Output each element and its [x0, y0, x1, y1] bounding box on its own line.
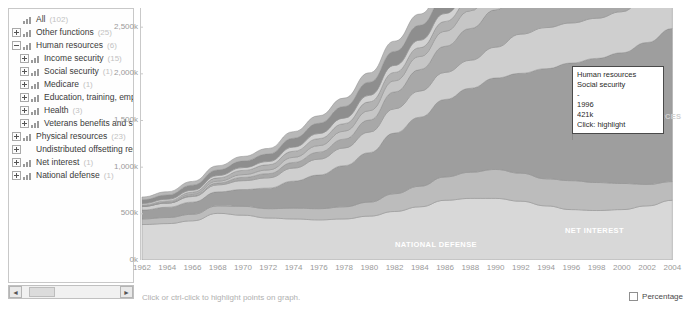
bar-chart-icon	[31, 94, 41, 102]
x-axis-tick-label: 1968	[209, 263, 227, 272]
x-axis-tick-label: 1962	[133, 263, 151, 272]
tree-item-label: Physical resources	[36, 130, 107, 143]
x-axis-tick-label: 1990	[487, 263, 505, 272]
expand-icon[interactable]	[20, 54, 29, 63]
tree-item-label: National defense	[36, 169, 100, 182]
x-axis-tick-label: 1996	[562, 263, 580, 272]
chart-areas[interactable]	[142, 8, 672, 260]
x-axis-tick-label: 1998	[588, 263, 606, 272]
collapse-icon[interactable]	[12, 41, 21, 50]
tree-item-label: Income security	[44, 52, 104, 65]
expand-icon[interactable]	[12, 132, 21, 141]
icon-placeholder	[23, 146, 33, 154]
expand-icon[interactable]	[12, 158, 21, 167]
bar-chart-icon	[23, 29, 33, 37]
y-axis-tick-label: 1,000k	[102, 162, 138, 171]
bar-chart-icon	[31, 68, 41, 76]
x-axis-tick-label: 1984	[411, 263, 429, 272]
graph-hint-text: Click or ctrl-click to highlight points …	[142, 293, 300, 302]
tooltip-separator: -	[577, 90, 659, 100]
tree-item-label: All	[36, 13, 45, 26]
y-axis-tick-label: 2,000k	[102, 68, 138, 77]
bar-chart-icon	[31, 55, 41, 63]
tooltip-category: Human resources	[577, 70, 659, 80]
area-label-national-defense: NATIONAL DEFENSE	[395, 240, 477, 249]
bar-chart-icon	[31, 120, 41, 128]
expand-icon[interactable]	[12, 171, 21, 180]
expand-icon[interactable]	[20, 67, 29, 76]
tree-item-label: Net interest	[36, 156, 79, 169]
percentage-toggle[interactable]: Percentage	[629, 292, 683, 301]
percentage-label: Percentage	[642, 292, 683, 301]
percentage-checkbox[interactable]	[629, 292, 638, 301]
y-axis-tick-label: 1,500k	[102, 115, 138, 124]
y-axis-labels: 0k500k1,000k1,500k2,000k2,500k	[102, 8, 138, 260]
x-axis-tick-label: 1964	[158, 263, 176, 272]
x-axis-tick-label: 1978	[335, 263, 353, 272]
sidebar-horizontal-scrollbar[interactable]: ◄ ►	[8, 285, 134, 299]
x-axis-tick-label: 1970	[234, 263, 252, 272]
bar-chart-icon	[23, 133, 33, 141]
x-axis-tick-label: 1966	[184, 263, 202, 272]
tooltip-value: 421k	[577, 110, 659, 120]
y-axis-tick-label: 500k	[102, 208, 138, 217]
tree-item-label: Health	[44, 104, 69, 117]
stacked-area-chart[interactable]: 0k500k1,000k1,500k2,000k2,500k 196219641…	[140, 8, 685, 286]
scroll-left-button[interactable]: ◄	[9, 286, 22, 298]
area-label-net-interest: NET INTEREST	[565, 226, 624, 235]
spacer-icon	[12, 15, 21, 24]
x-axis-tick-label: 1994	[537, 263, 555, 272]
expand-icon[interactable]	[20, 119, 29, 128]
expand-icon[interactable]	[20, 80, 29, 89]
expand-icon[interactable]	[20, 93, 29, 102]
tree-item-label: Human resources	[36, 39, 103, 52]
x-axis-tick-label: 1982	[386, 263, 404, 272]
x-axis-labels: 1962196419661968197019721974197619781980…	[140, 263, 685, 277]
bar-chart-icon	[31, 107, 41, 115]
tree-item-label: Social security	[44, 65, 99, 78]
tree-item-count: (3)	[73, 104, 83, 117]
x-axis-tick-label: 1974	[285, 263, 303, 272]
tree-item-count: (102)	[49, 13, 68, 26]
bar-chart-icon	[23, 159, 33, 167]
chart-plot-area[interactable]	[140, 8, 685, 260]
expand-icon[interactable]	[12, 28, 21, 37]
tree-item-label: Other functions	[36, 26, 94, 39]
x-axis-tick-label: 2000	[613, 263, 631, 272]
tree-item-label: Medicare	[44, 78, 79, 91]
bar-chart-icon	[23, 172, 33, 180]
bar-chart-icon	[23, 42, 33, 50]
tree-item-count: (1)	[83, 156, 93, 169]
tooltip-action-hint: Click: highlight	[577, 120, 659, 130]
bar-chart-icon	[31, 81, 41, 89]
tooltip-subcategory: Social security	[577, 80, 659, 90]
x-axis-tick-label: 1972	[259, 263, 277, 272]
tooltip-year: 1996	[577, 100, 659, 110]
y-axis-tick-label: 2,500k	[102, 22, 138, 31]
scrollbar-thumb[interactable]	[29, 287, 55, 297]
x-axis-tick-label: 1992	[512, 263, 530, 272]
x-axis-tick-label: 1980	[360, 263, 378, 272]
graph-explorer-window: All(102)Other functions(25)Human resourc…	[0, 0, 691, 316]
datapoint-tooltip: Human resources Social security - 1996 4…	[572, 66, 664, 134]
scroll-right-button[interactable]: ►	[120, 286, 133, 298]
bar-chart-icon	[23, 16, 33, 24]
x-axis-tick-label: 1976	[310, 263, 328, 272]
x-axis-tick-label: 2002	[638, 263, 656, 272]
tree-item-count: (1)	[83, 78, 93, 91]
expand-icon[interactable]	[12, 145, 21, 154]
x-axis-tick-label: 1986	[436, 263, 454, 272]
expand-icon[interactable]	[20, 106, 29, 115]
x-axis-tick-label: 2004	[663, 263, 681, 272]
x-axis-tick-label: 1988	[461, 263, 479, 272]
